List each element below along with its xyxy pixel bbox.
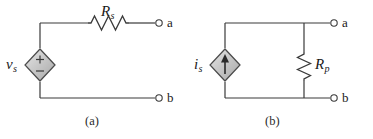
terminal-node-a-circuit-a <box>156 20 162 26</box>
circuit-figure: Rs vs a b (a) is Rp a b (b) <box>0 0 373 139</box>
voltage-source-diamond <box>25 49 55 81</box>
terminal-label-b-circuit-b: b <box>342 91 349 104</box>
terminal-node-b-circuit-b <box>331 95 337 101</box>
terminal-node-a-circuit-b <box>331 20 337 26</box>
terminal-label-a-circuit-b: a <box>342 16 348 29</box>
caption-circuit-b: (b) <box>265 115 280 128</box>
circuit-a-group <box>25 16 162 101</box>
resistor-rs-label: Rs <box>101 4 114 19</box>
resistor-rp-zigzag <box>298 52 311 81</box>
terminal-node-b-circuit-a <box>156 95 162 101</box>
terminal-label-b-circuit-a: b <box>167 91 174 104</box>
resistor-rp-label: Rp <box>315 57 329 72</box>
caption-circuit-a: (a) <box>85 115 99 128</box>
current-source-label: is <box>194 57 202 72</box>
terminal-label-a-circuit-a: a <box>167 16 173 29</box>
voltage-source-label: vs <box>6 57 17 72</box>
